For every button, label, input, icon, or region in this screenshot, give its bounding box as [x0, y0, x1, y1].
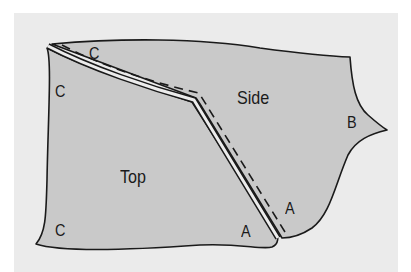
- side-label: Side: [237, 88, 269, 107]
- point-c-left-upper: C: [55, 83, 65, 100]
- point-a-side: A: [285, 200, 295, 217]
- top-label: Top: [120, 167, 146, 186]
- point-a-top: A: [241, 223, 251, 240]
- point-c-left-lower: C: [55, 222, 65, 239]
- point-b: B: [347, 114, 357, 131]
- point-c-top: C: [89, 45, 99, 62]
